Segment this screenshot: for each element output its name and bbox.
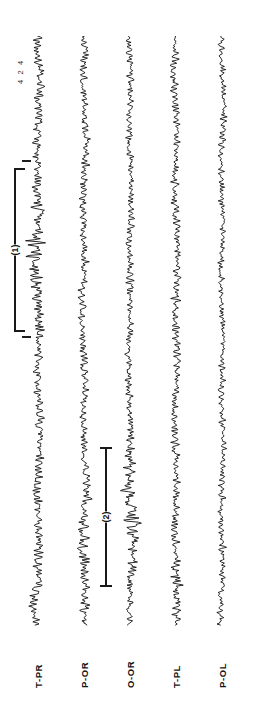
eeg-trace-p-ol <box>200 36 244 626</box>
trace-path-p-ol <box>200 36 244 626</box>
bracket-arm-top <box>14 168 25 170</box>
channel-label-t-pl: T-PL <box>171 665 182 688</box>
trace-path-t-pl <box>154 36 198 626</box>
eeg-figure: 4 2 4 T-PRP-ORO-ORT-PLP-OL (1)(2) <box>0 0 258 705</box>
channel-label-p-ol: P-OL <box>217 663 228 688</box>
channel-label-t-pr: T-PR <box>33 664 44 688</box>
bracket-arm-bottom <box>14 330 25 332</box>
ibeam-cap-top <box>100 447 112 449</box>
annotation-marker-1: (1) <box>14 168 26 332</box>
annotation-label-1: (1) <box>9 245 21 256</box>
eeg-trace-t-pl <box>154 36 198 626</box>
channel-label-p-or: P-OR <box>79 662 90 688</box>
eeg-trace-o-or <box>108 36 152 626</box>
channel-label-o-or: O-OR <box>125 661 136 688</box>
ibeam-cap-bottom <box>100 585 112 587</box>
trace-path-o-or <box>108 36 152 626</box>
annotation-marker-2: (2) <box>100 447 112 587</box>
trace-tick-mark <box>22 336 31 338</box>
trace-tick-mark <box>22 160 31 162</box>
annotation-label-2: (2) <box>100 512 112 523</box>
